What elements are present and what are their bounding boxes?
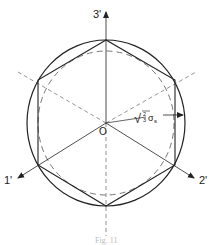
figure-caption: Fig. 11 <box>95 236 117 245</box>
radius-label: √ 2 3 σ s <box>134 111 157 126</box>
axis-1-label: 1' <box>4 174 12 186</box>
svg-text:3: 3 <box>143 117 146 123</box>
axis-2-label: 2' <box>199 174 207 186</box>
axis-3-label: 3' <box>93 8 101 20</box>
svg-text:s: s <box>154 118 157 124</box>
svg-text:√: √ <box>134 111 142 126</box>
yield-surface-diagram: 3' 1' 2' O √ 2 3 σ s Fig. 11 <box>0 0 215 245</box>
origin-label: O <box>99 126 107 137</box>
